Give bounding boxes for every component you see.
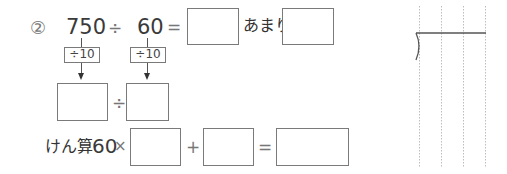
arrow-down-icon bbox=[78, 73, 84, 80]
plus-sign: + bbox=[186, 139, 200, 156]
divide-sign: ÷ bbox=[108, 20, 122, 37]
long-division-workspace bbox=[400, 0, 507, 174]
reduced-divisor-box[interactable] bbox=[126, 83, 169, 121]
check-label: けん算 bbox=[45, 139, 93, 155]
division-bracket-icon bbox=[416, 33, 419, 60]
step-divisor-box: ÷10 bbox=[130, 47, 166, 63]
connector-line bbox=[147, 38, 148, 47]
check-remainder-box[interactable] bbox=[203, 128, 254, 166]
quotient-answer-box[interactable] bbox=[187, 8, 239, 45]
check-result-box[interactable] bbox=[276, 128, 349, 166]
step-dividend-box: ÷10 bbox=[64, 47, 100, 63]
arrow-down-icon bbox=[144, 73, 150, 80]
reduced-dividend-box[interactable] bbox=[57, 83, 108, 121]
check-quotient-box[interactable] bbox=[130, 128, 181, 166]
reduced-divide-sign: ÷ bbox=[112, 95, 126, 112]
equals-sign: = bbox=[167, 19, 181, 36]
divisor: 60 bbox=[137, 17, 164, 38]
remainder-answer-box[interactable] bbox=[282, 8, 334, 45]
dividend: 750 bbox=[66, 17, 106, 38]
times-sign: × bbox=[114, 139, 127, 154]
problem-number: ② bbox=[30, 19, 46, 37]
connector-line bbox=[81, 38, 82, 47]
check-equals-sign: = bbox=[258, 139, 272, 156]
